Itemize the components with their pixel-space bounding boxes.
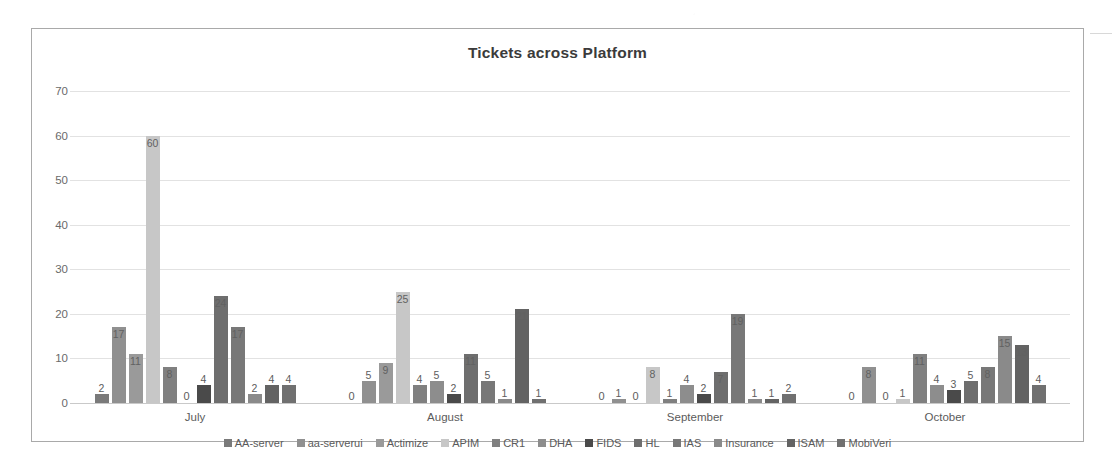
bar[interactable]: 2 <box>447 394 461 403</box>
bar[interactable]: 24 <box>214 296 228 403</box>
x-axis-category-label: September <box>667 411 723 423</box>
bar[interactable]: 8 <box>981 367 995 403</box>
bar-value-label: 1 <box>616 388 622 399</box>
legend-swatch-icon <box>634 439 642 447</box>
bar[interactable]: 5 <box>481 381 495 403</box>
bar[interactable]: 8 <box>862 367 876 403</box>
bar[interactable]: 4 <box>1032 385 1046 403</box>
legend-label: MobiVeri <box>848 437 891 449</box>
legend-swatch-icon <box>376 439 384 447</box>
bar-value-label: 0 <box>345 390 359 402</box>
bar-value-label: 3 <box>951 379 957 390</box>
bar[interactable]: 5 <box>362 381 376 403</box>
legend-item-mobiveri[interactable]: MobiVeri <box>837 437 891 449</box>
bar[interactable]: 8 <box>163 367 177 403</box>
bar[interactable]: 60 <box>146 136 160 403</box>
chart-title: Tickets across Platform <box>32 44 1083 62</box>
bar[interactable]: 1 <box>498 399 512 403</box>
bar[interactable]: 1 <box>896 399 910 403</box>
bar[interactable]: 4 <box>680 385 694 403</box>
bar[interactable]: 5 <box>430 381 444 403</box>
bar-value-label: 17 <box>232 329 244 340</box>
bar[interactable]: 2 <box>95 394 109 403</box>
bar-value-label: 24 <box>215 298 227 309</box>
bar[interactable]: 19 <box>731 314 745 403</box>
bar[interactable]: 1 <box>748 399 762 403</box>
bar[interactable]: 21 <box>515 309 529 403</box>
legend-item-cr1[interactable]: CR1 <box>492 437 525 449</box>
bar[interactable]: 11 <box>129 354 143 403</box>
legend-label: FIDS <box>596 437 621 449</box>
legend-label: AA-server <box>235 437 284 449</box>
bar-value-label: 2 <box>786 383 792 394</box>
plot-area: 010203040506070 21711608042417244July059… <box>70 91 1070 403</box>
bar-value-label: 1 <box>502 388 508 399</box>
bar[interactable]: 2 <box>697 394 711 403</box>
legend-item-dha[interactable]: DHA <box>538 437 572 449</box>
bar[interactable]: 4 <box>197 385 211 403</box>
bar[interactable]: 7 <box>714 372 728 403</box>
bar-value-label: 2 <box>99 383 105 394</box>
bar-value-label: 0 <box>180 390 194 402</box>
x-axis-category-label: July <box>185 411 205 423</box>
bar[interactable]: 1 <box>532 399 546 403</box>
y-tick-label-0: 0 <box>28 397 68 409</box>
bar[interactable]: 1 <box>765 399 779 403</box>
bar[interactable]: 8 <box>646 367 660 403</box>
bar-value-label: 5 <box>485 370 491 381</box>
legend-item-isam[interactable]: ISAM <box>787 437 825 449</box>
bar-value-label: 11 <box>130 356 141 367</box>
legend-label: CR1 <box>503 437 525 449</box>
legend-swatch-icon <box>538 439 546 447</box>
legend-item-hl[interactable]: HL <box>634 437 659 449</box>
bar-value-label: 7 <box>718 374 724 385</box>
bar-group-september: 0108142719112September <box>570 91 820 403</box>
bar[interactable]: 1 <box>663 399 677 403</box>
bar-value-label: 11 <box>465 356 476 367</box>
bar-value-label: 0 <box>629 390 643 402</box>
bar[interactable]: 2 <box>782 394 796 403</box>
bar[interactable]: 4 <box>282 385 296 403</box>
chart-container: Tickets across Platform 010203040506070 … <box>31 28 1084 442</box>
bar[interactable]: 1 <box>612 399 626 403</box>
y-tick-label-10: 10 <box>28 352 68 364</box>
legend-item-actimize[interactable]: Actimize <box>376 437 429 449</box>
bar[interactable]: 15 <box>998 336 1012 403</box>
legend-swatch-icon <box>297 439 305 447</box>
bar[interactable]: 5 <box>964 381 978 403</box>
bar[interactable]: 4 <box>413 385 427 403</box>
legend-label: Actimize <box>387 437 429 449</box>
bar-value-label: 2 <box>451 383 457 394</box>
bar[interactable]: 25 <box>396 292 410 403</box>
bar-value-label: 8 <box>866 369 872 380</box>
bar-value-label: 2 <box>252 383 258 394</box>
bar[interactable]: 13 <box>1015 345 1029 403</box>
bar[interactable]: 17 <box>112 327 126 403</box>
bar[interactable]: 11 <box>913 354 927 403</box>
x-axis-category-label: August <box>427 411 463 423</box>
legend-item-aa-server[interactable]: AA-server <box>224 437 284 449</box>
bar-value-label: 21 <box>516 311 528 322</box>
bar-value-label: 4 <box>286 374 292 385</box>
legend-item-fids[interactable]: FIDS <box>585 437 621 449</box>
legend-swatch-icon <box>224 439 232 447</box>
bar[interactable]: 2 <box>248 394 262 403</box>
bar[interactable]: 4 <box>265 385 279 403</box>
bar-value-label: 1 <box>667 388 673 399</box>
bar[interactable]: 9 <box>379 363 393 403</box>
bar[interactable]: 3 <box>947 390 961 403</box>
bar-value-label: 4 <box>684 374 690 385</box>
legend-swatch-icon <box>714 439 722 447</box>
legend-item-insurance[interactable]: Insurance <box>714 437 773 449</box>
bar[interactable]: 11 <box>464 354 478 403</box>
bar[interactable]: 4 <box>930 385 944 403</box>
legend-item-apim[interactable]: APIM <box>441 437 479 449</box>
legend-item-ias[interactable]: IAS <box>673 437 702 449</box>
bar-group-october: 080111435815134October <box>820 91 1070 403</box>
bar[interactable]: 17 <box>231 327 245 403</box>
bar-value-label: 0 <box>845 390 859 402</box>
bar-value-label: 9 <box>383 365 389 376</box>
bar-group-july: 21711608042417244July <box>70 91 320 403</box>
legend-label: Insurance <box>725 437 773 449</box>
legend-item-aa-serverui[interactable]: aa-serverui <box>297 437 363 449</box>
